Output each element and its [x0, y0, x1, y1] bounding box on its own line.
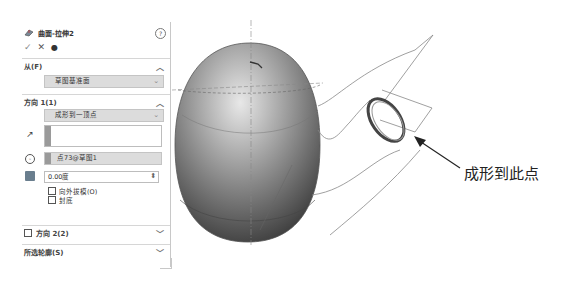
direction2-section-label: 方向 2(2) — [36, 228, 69, 238]
from-dropdown-value: 草图基准面 — [55, 77, 90, 85]
cancel-x-icon[interactable]: ✕ — [38, 42, 46, 52]
selected-contours-label: 所选轮廓(S) — [24, 247, 63, 257]
property-manager-panel: 曲面-拉伸2 ? ✓ ✕ ● 从(F) ︿ 草图基准面 ⌄ 方向 1(1) ︿ … — [22, 22, 171, 267]
draft-toggle-icon[interactable] — [25, 171, 35, 181]
help-icon[interactable]: ? — [155, 28, 166, 39]
sketch-curves — [312, 35, 433, 235]
draft-outward-checkbox[interactable] — [48, 187, 56, 195]
from-dropdown[interactable]: 草图基准面 ⌄ — [44, 75, 164, 88]
selected-contours-section: 所选轮廓(S) ﹀ — [22, 244, 170, 261]
from-section-label: 从(F) — [24, 61, 42, 71]
from-section: 从(F) ︿ 草图基准面 ⌄ — [22, 58, 170, 93]
direction-arrow-icon: ↗ — [25, 129, 35, 139]
direction1-section-label: 方向 1(1) — [24, 97, 57, 107]
cap-end-checkbox-row[interactable]: 封底 — [48, 195, 73, 205]
callout-arrowhead-icon — [414, 136, 426, 147]
preview-eye-icon[interactable]: ● — [51, 43, 58, 52]
direction-vector-selection-box[interactable] — [44, 125, 162, 147]
end-condition-dropdown[interactable]: 成形到一顶点 ⌄ — [44, 109, 164, 122]
ok-check-icon[interactable]: ✓ — [24, 42, 32, 52]
direction2-section: 方向 2(2) ﹀ — [22, 225, 170, 242]
from-section-header[interactable]: 从(F) ︿ — [22, 59, 170, 73]
direction1-section: 方向 1(1) ︿ 成形到一顶点 ⌄ ↗ ◦ 点73@草图1 0.00度 ⬍ 向… — [22, 94, 170, 233]
draft-angle-value: 0.00度 — [48, 173, 69, 181]
direction1-section-header[interactable]: 方向 1(1) ︿ — [22, 95, 170, 109]
vertex-icon: ◦ — [25, 154, 35, 164]
graphics-viewport[interactable] — [172, 0, 566, 287]
chevron-down-icon: ⌄ — [153, 76, 159, 87]
panel-resize-corner — [160, 258, 172, 269]
draft-angle-input[interactable]: 0.00度 ⬍ — [44, 171, 159, 183]
end-condition-value: 成形到一顶点 — [55, 111, 97, 119]
chevron-down-icon[interactable]: ﹀ — [156, 247, 164, 258]
chevron-up-icon[interactable]: ︿ — [156, 61, 164, 72]
panel-title: 曲面-拉伸2 — [38, 28, 74, 38]
vertex-value: 点73@草图1 — [57, 154, 97, 162]
chevron-down-icon: ⌄ — [153, 110, 159, 121]
callout-leader-line — [418, 140, 460, 168]
chevron-down-icon[interactable]: ﹀ — [156, 228, 164, 239]
selected-contours-header[interactable]: 所选轮廓(S) ﹀ — [22, 245, 170, 259]
panel-title-row: 曲面-拉伸2 ? — [22, 27, 170, 39]
selection-color-bar — [45, 153, 51, 164]
action-row: ✓ ✕ ● — [24, 42, 58, 52]
spinner-arrows-icon[interactable]: ⬍ — [150, 171, 156, 181]
extruded-surface-body — [175, 43, 320, 242]
direction2-section-header[interactable]: 方向 2(2) ﹀ — [22, 226, 170, 240]
ring-profile — [361, 92, 411, 147]
callout-label: 成形到此点 — [464, 162, 539, 183]
chevron-up-icon[interactable]: ︿ — [156, 97, 164, 108]
vertex-selection-box[interactable]: 点73@草图1 — [44, 152, 162, 165]
cap-end-checkbox[interactable] — [48, 196, 56, 204]
surface-extrude-icon — [24, 29, 34, 37]
selection-color-bar — [45, 126, 51, 146]
direction2-checkbox[interactable] — [24, 229, 32, 237]
cap-end-label: 封底 — [59, 195, 73, 205]
